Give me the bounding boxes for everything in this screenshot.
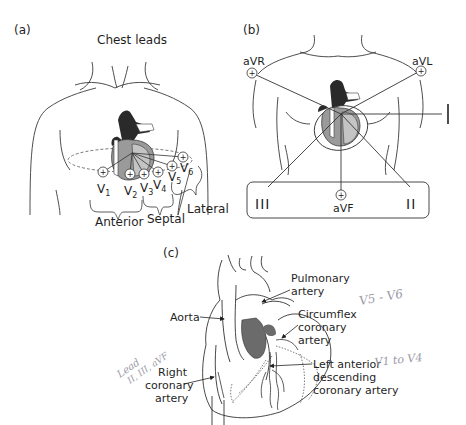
svg-text:+: + <box>249 69 256 78</box>
note-v1-to-v4: V1 to V4 <box>374 351 423 369</box>
label-rca-2: coronary <box>145 379 194 392</box>
leader-circumflex <box>282 325 298 338</box>
svg-text:+: + <box>338 191 345 200</box>
group-anterior: Anterior <box>95 215 144 229</box>
label-v2: V2 <box>124 184 137 200</box>
line-avr <box>254 74 341 114</box>
label-v6: V6 <box>180 161 193 177</box>
circumflex-artery <box>276 339 298 350</box>
label-circumflex-3: artery <box>298 334 332 347</box>
anatomy-labels: Pulmonary artery Aorta Circumflex corona… <box>145 272 399 405</box>
label-circumflex-2: coronary <box>298 321 347 334</box>
electrode-v2: + <box>125 169 135 179</box>
label-pulmonary-1: Pulmonary <box>291 272 350 285</box>
electrode-v4: + <box>153 167 163 177</box>
svg-text:+: + <box>141 170 148 179</box>
panel-a: (a) Chest leads <box>14 23 229 229</box>
label-ii: II <box>406 196 416 212</box>
electrode-avf: + <box>336 190 346 200</box>
electrode-avr: + <box>247 68 257 78</box>
label-pulmonary-2: artery <box>291 285 325 298</box>
svg-text:+: + <box>127 170 134 179</box>
label-aorta: Aorta <box>170 311 200 324</box>
label-avl: aVL <box>412 55 433 68</box>
label-circumflex-1: Circumflex <box>298 308 357 321</box>
label-v4: V4 <box>153 178 166 194</box>
svg-text:+: + <box>155 168 162 177</box>
group-lateral: Lateral <box>187 202 229 216</box>
electrode-v3: + <box>139 169 149 179</box>
label-lad-3: coronary artery <box>313 384 399 397</box>
leader-aorta <box>200 317 224 319</box>
panel-b: (b) <box>243 23 448 218</box>
line-ii <box>341 114 410 187</box>
lad-artery <box>261 352 284 410</box>
label-avr: aVR <box>243 55 265 68</box>
electrode-v1: + <box>98 167 108 177</box>
note-v5-v6: V5 - V6 <box>358 286 404 308</box>
label-v3: V3 <box>140 181 153 197</box>
panel-b-tag: (b) <box>243 23 260 37</box>
panel-a-title: Chest leads <box>97 33 167 47</box>
leader-pulmonary <box>262 290 290 302</box>
label-lad-2: descending <box>313 371 376 384</box>
panel-c: (c) <box>114 246 423 425</box>
label-iii: III <box>255 196 270 212</box>
svg-text:+: + <box>100 168 107 177</box>
ecg-leads-diagram: (a) Chest leads <box>0 0 466 425</box>
coronary-branches <box>231 346 318 404</box>
line-avl <box>341 71 420 114</box>
label-lad-1: Left anterior <box>313 358 381 371</box>
label-v1: V1 <box>97 182 110 198</box>
label-avf: aVF <box>333 202 354 215</box>
group-septal: Septal <box>147 212 185 226</box>
label-rca-1: Right <box>158 366 188 379</box>
panel-a-tag: (a) <box>14 23 31 37</box>
svg-text:+: + <box>418 67 425 76</box>
rca-artery <box>218 372 224 398</box>
panel-c-tag: (c) <box>163 246 179 260</box>
label-rca-3: artery <box>155 392 189 405</box>
left-atrium-shade <box>242 318 267 358</box>
